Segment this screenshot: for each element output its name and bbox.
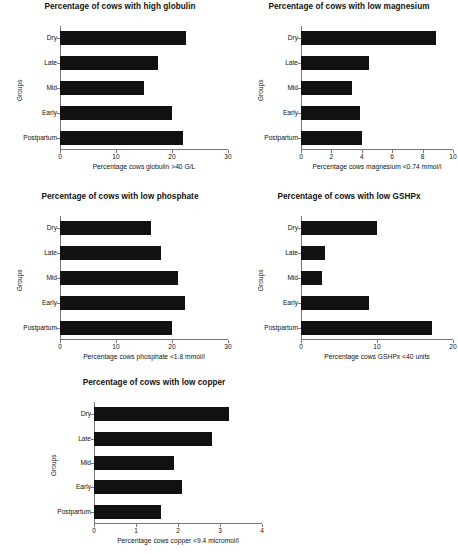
bar	[60, 31, 186, 45]
y-axis-tick	[298, 88, 301, 89]
y-axis-tick	[57, 88, 60, 89]
bar-row: Dry	[94, 407, 262, 421]
category-label: Postpartum	[264, 135, 301, 142]
y-axis-tick	[57, 138, 60, 139]
bar-row: Late	[60, 56, 228, 70]
plot-area: DryLateMidEarlyPostpartum01020Percentage…	[301, 216, 453, 340]
y-axis-label: Groups	[50, 454, 57, 476]
y-axis-label: Groups	[257, 269, 264, 291]
bar-row: Mid	[94, 456, 262, 470]
bar-row: Dry	[60, 221, 228, 235]
x-axis-tick-label: 0	[58, 154, 62, 161]
x-axis-tick-label: 4	[260, 528, 264, 535]
bar-row: Mid	[301, 81, 453, 95]
x-axis-tick-label: 1	[134, 528, 138, 535]
x-axis-tick-label: 6	[390, 154, 394, 161]
y-axis-label: Groups	[16, 269, 23, 291]
x-axis-tick-label: 20	[449, 344, 456, 351]
y-axis-tick	[91, 439, 94, 440]
category-label: Postpartum	[57, 509, 94, 516]
bar-row: Early	[301, 296, 453, 310]
bar-row: Late	[301, 56, 453, 70]
bar-row: Postpartum	[301, 131, 453, 145]
plot-area: DryLateMidEarlyPostpartum0246810Percenta…	[301, 26, 453, 150]
y-axis-tick	[298, 278, 301, 279]
bar	[301, 131, 362, 145]
bar	[60, 221, 151, 235]
chart-title: Percentage of cows with low magnesium	[240, 2, 458, 11]
bar-row: Late	[94, 432, 262, 446]
y-axis-tick	[57, 328, 60, 329]
y-axis-tick	[91, 463, 94, 464]
x-axis-tick-label: 10	[373, 344, 380, 351]
y-axis-tick	[57, 63, 60, 64]
bar	[301, 81, 352, 95]
bar	[301, 106, 360, 120]
plot-area: DryLateMidEarlyPostpartum0102030Percenta…	[60, 26, 228, 150]
bar-row: Early	[301, 106, 453, 120]
x-axis-tick-label: 0	[58, 344, 62, 351]
category-label: Postpartum	[264, 325, 301, 332]
chart-panel: Percentage of cows with low copperGroups…	[34, 378, 274, 554]
y-axis-tick	[298, 38, 301, 39]
x-axis-tick-label: 10	[112, 344, 119, 351]
category-label: Postpartum	[23, 325, 60, 332]
bar	[94, 407, 229, 421]
bar	[60, 81, 144, 95]
bar	[301, 31, 436, 45]
y-axis-label: Groups	[16, 79, 23, 101]
x-axis-label: Percentage cows GSHPx <40 units	[301, 353, 453, 360]
x-axis-line	[60, 149, 228, 150]
y-axis-tick	[298, 253, 301, 254]
bar-row: Postpartum	[60, 321, 228, 335]
bar-row: Mid	[60, 81, 228, 95]
plot-area: DryLateMidEarlyPostpartum01234Percentage…	[94, 402, 262, 524]
y-axis-tick	[298, 328, 301, 329]
bar-row: Early	[60, 106, 228, 120]
chart-title: Percentage of cows with low copper	[34, 378, 274, 387]
bar	[94, 456, 174, 470]
chart-panel: Percentage of cows with low GSHPxGroupsD…	[240, 192, 458, 370]
x-axis-line	[301, 149, 453, 150]
x-axis-line	[60, 339, 228, 340]
x-axis-tick-label: 20	[168, 154, 175, 161]
y-axis-tick	[298, 228, 301, 229]
bar-row: Postpartum	[94, 505, 262, 519]
y-axis-tick	[57, 228, 60, 229]
bar	[301, 296, 369, 310]
bar-row: Dry	[301, 221, 453, 235]
bar-row: Mid	[60, 271, 228, 285]
bar	[301, 221, 377, 235]
x-axis-tick-label: 20	[168, 344, 175, 351]
x-axis-label: Percentage cows magnesium <0.74 mmol/l	[301, 163, 453, 170]
y-axis-tick	[57, 38, 60, 39]
y-axis-tick	[57, 253, 60, 254]
bar-row: Late	[60, 246, 228, 260]
bar	[94, 432, 212, 446]
x-axis-tick-label: 30	[224, 154, 231, 161]
bar-row: Dry	[301, 31, 453, 45]
y-axis-tick	[57, 113, 60, 114]
y-axis-tick	[57, 278, 60, 279]
bar-row: Postpartum	[301, 321, 453, 335]
x-axis-tick-label: 0	[299, 154, 303, 161]
x-axis-label: Percentage cows phosphate <1.8 mmol/l	[60, 353, 228, 360]
chart-title: Percentage of cows with low phosphate	[0, 192, 240, 201]
bar	[60, 246, 161, 260]
bar-row: Late	[301, 246, 453, 260]
x-axis-tick-label: 2	[330, 154, 334, 161]
bar-row: Early	[60, 296, 228, 310]
y-axis-tick	[298, 138, 301, 139]
chart-title: Percentage of cows with high globulin	[0, 2, 240, 11]
y-axis-tick	[57, 303, 60, 304]
bar	[60, 296, 185, 310]
x-axis-tick-label: 4	[360, 154, 364, 161]
y-axis-label: Groups	[257, 79, 264, 101]
bar-row: Postpartum	[60, 131, 228, 145]
bar	[301, 321, 432, 335]
bar	[94, 505, 161, 519]
chart-title: Percentage of cows with low GSHPx	[240, 192, 458, 201]
y-axis-tick	[298, 303, 301, 304]
x-axis-tick-label: 8	[421, 154, 425, 161]
x-axis-label: Percentage cows copper <9.4 micromol/l	[94, 537, 262, 544]
